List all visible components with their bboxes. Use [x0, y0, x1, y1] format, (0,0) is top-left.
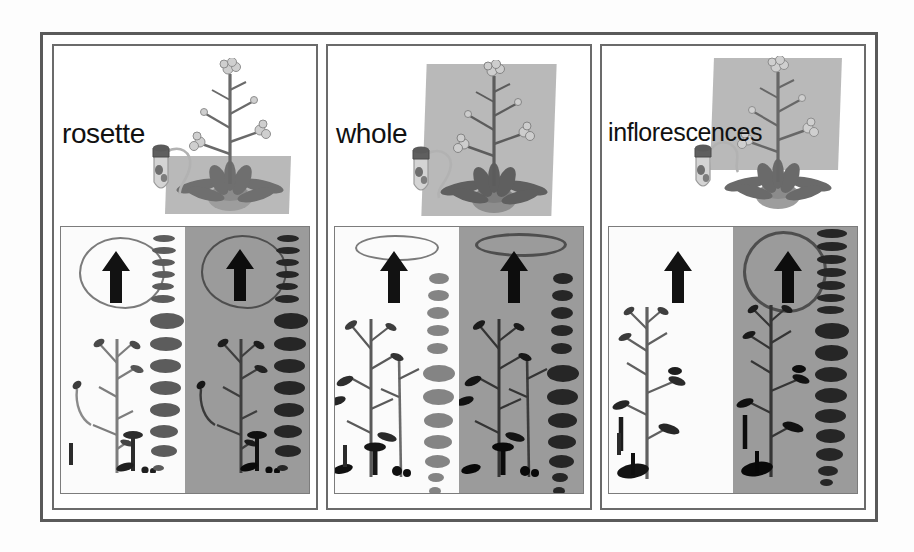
- centrifuge-tube-icon: [406, 144, 460, 206]
- photo-half-white-inflorescences: [609, 227, 733, 493]
- scale-bar: [69, 443, 73, 465]
- panel-whole[interactable]: whole: [326, 44, 592, 510]
- panel-whole-photo: [334, 226, 584, 494]
- plant-skeleton-silhouette: [609, 289, 713, 483]
- photo-half-white-rosette: [61, 227, 185, 493]
- up-arrow-icon: [773, 249, 803, 305]
- photo-half-gray-rosette: [185, 227, 309, 493]
- scale-bar: [617, 433, 621, 455]
- plant-skeleton-silhouette: [63, 323, 159, 477]
- plant-skeleton-silhouette: [335, 297, 433, 481]
- centrifuge-tube-icon: [146, 142, 200, 204]
- up-arrow-icon: [225, 247, 255, 303]
- panel-rosette-photo: [60, 226, 310, 494]
- panel-rosette-illustration: rosette: [54, 46, 316, 224]
- panel-whole-illustration: whole: [328, 46, 590, 224]
- up-arrow-icon: [101, 249, 131, 305]
- photo-half-white-whole: [335, 227, 459, 493]
- photo-half-gray-whole: [459, 227, 583, 493]
- up-arrow-icon: [499, 249, 529, 305]
- photo-half-gray-inflorescences: [733, 227, 857, 493]
- panels-row: rosette: [43, 35, 875, 519]
- figure-outer-frame: rosette: [40, 32, 878, 522]
- panel-label-rosette: rosette: [62, 118, 145, 150]
- up-arrow-icon: [663, 249, 693, 305]
- panel-rosette[interactable]: rosette: [52, 44, 318, 510]
- panel-inflorescences-photo: [608, 226, 858, 494]
- scale-bar: [343, 445, 347, 467]
- panel-inflorescences-illustration: inflorescences: [602, 46, 864, 224]
- up-arrow-icon: [379, 249, 409, 305]
- panel-label-whole: whole: [336, 118, 407, 150]
- figure-root: rosette: [0, 0, 914, 552]
- plant-skeleton-silhouette: [459, 297, 561, 481]
- panel-inflorescences[interactable]: inflorescences: [600, 44, 866, 510]
- plant-skeleton-silhouette: [187, 323, 283, 477]
- panel-label-inflorescences: inflorescences: [608, 118, 762, 147]
